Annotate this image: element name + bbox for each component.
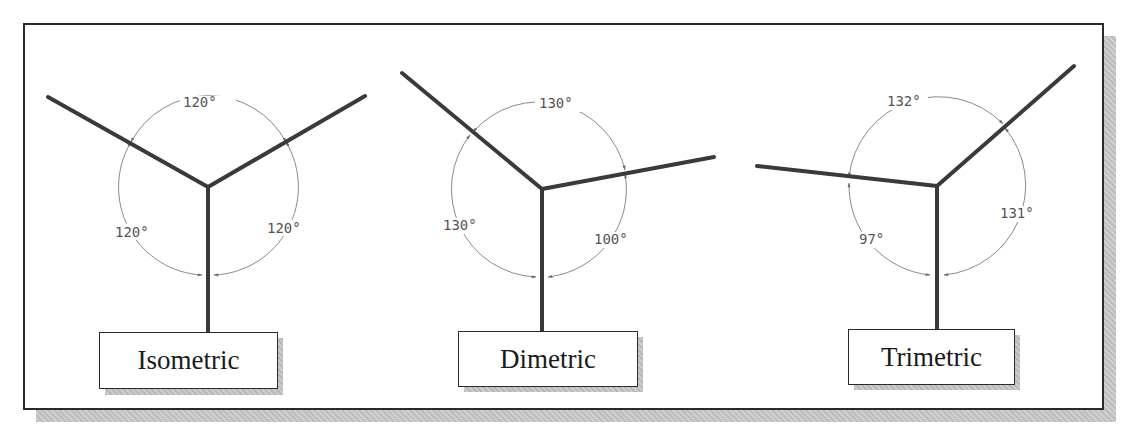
isometric-axes — [48, 96, 365, 332]
dimetric-diagram: 130° 100° 130° — [402, 73, 714, 331]
dimetric-angle-top: 130° — [539, 95, 573, 111]
isometric-label: Isometric — [99, 332, 278, 389]
isometric-angle-right: 120° — [267, 220, 301, 236]
trimetric-label: Trimetric — [848, 329, 1015, 385]
isometric-angle-left: 120° — [115, 224, 149, 240]
dimetric-angle-arcs — [451, 102, 626, 277]
dimetric-angle-right: 100° — [594, 231, 628, 247]
isometric-angle-top: 120° — [183, 94, 217, 110]
isometric-diagram: 120° 120° 120° — [48, 94, 365, 332]
trimetric-angle-right: 131° — [1000, 205, 1034, 221]
trimetric-angle-top: 132° — [887, 93, 921, 109]
dimetric-label: Dimetric — [458, 331, 638, 387]
dimetric-angle-left: 130° — [443, 217, 477, 233]
trimetric-angle-left: 97° — [859, 231, 884, 247]
trimetric-diagram: 132° 131° 97° — [757, 66, 1074, 329]
